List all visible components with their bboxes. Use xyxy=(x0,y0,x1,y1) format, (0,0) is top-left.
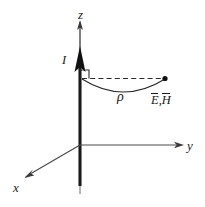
h-field-symbol: H xyxy=(162,93,171,108)
rho-label: ρ xyxy=(117,90,124,104)
field-point-label: E,H xyxy=(151,93,171,108)
x-axis-label: x xyxy=(13,181,19,194)
current-label: I xyxy=(62,54,66,67)
e-field-symbol: E xyxy=(151,93,159,108)
field-point-dot xyxy=(162,76,167,81)
y-axis-label: y xyxy=(187,139,193,152)
figure-canvas: z I ρ y x E,H xyxy=(0,0,205,207)
x-axis-arrow-icon xyxy=(24,169,34,178)
z-axis-label: z xyxy=(78,8,83,21)
diagram-svg xyxy=(0,0,205,207)
x-axis-line xyxy=(31,145,80,174)
